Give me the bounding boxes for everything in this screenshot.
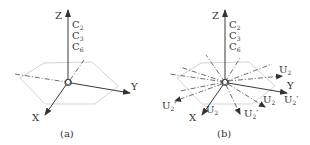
u2-label-near-x: U2 — [206, 104, 218, 116]
u2-prime-label-left: U2′ — [162, 100, 177, 112]
u2-axis-lower-right — [228, 84, 265, 107]
u2-prime-axis-bottom — [226, 85, 240, 114]
x-axis — [45, 85, 66, 115]
x-axis-label: X — [189, 112, 197, 123]
u2-prime-label-right: U2′ — [284, 94, 299, 106]
y-axis-label: Y — [286, 80, 294, 91]
origin-label: O — [64, 77, 72, 88]
panel-a: O Z Y X C2 C3 C6 (a) — [15, 10, 138, 139]
z-axis-label: Z — [212, 10, 219, 21]
u2-label-upper-right: U2 — [279, 64, 291, 76]
caption-a: (a) — [60, 128, 74, 139]
y-axis-label: Y — [130, 81, 138, 92]
c6-label: C6 — [229, 41, 241, 53]
u2-axis-upper-right — [228, 76, 282, 81]
x-axis-label: X — [32, 112, 40, 123]
y-axis — [228, 83, 287, 93]
y-axis — [71, 83, 130, 93]
caption-b: (b) — [217, 128, 231, 139]
panel-b: O Z Y X C2 C3 C6 U2 U2′ U2 U2′ U2 U2′ (b… — [162, 10, 299, 139]
origin-label: O — [221, 77, 229, 88]
symmetry-axes-figure: O Z Y X C2 C3 C6 (a) — [0, 0, 310, 145]
u2-label-lower-right: U2 — [263, 94, 275, 106]
u2-prime-label-bottom: U2′ — [244, 108, 259, 120]
z-axis-label: Z — [55, 10, 62, 21]
u2-prime-axis-left — [175, 84, 222, 101]
c6-label: C6 — [72, 41, 84, 53]
